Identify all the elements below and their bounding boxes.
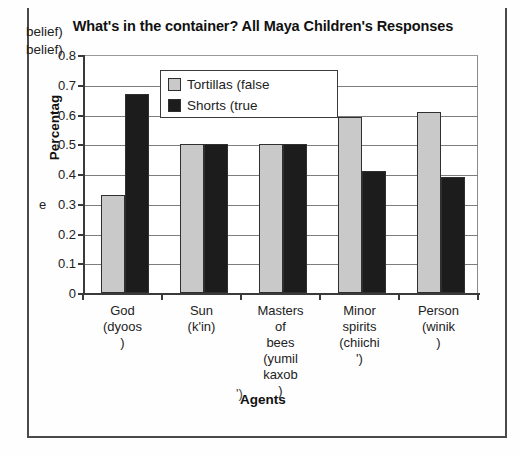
x-axis-category-label: Masters bbox=[236, 303, 326, 319]
y-axis-tick bbox=[78, 115, 85, 117]
bar-tortillas bbox=[101, 195, 125, 293]
x-axis-category-label: God bbox=[78, 303, 168, 319]
x-axis-category-label: ') bbox=[315, 351, 405, 367]
x-axis-category-label: (dyoos bbox=[78, 319, 168, 335]
x-axis-tick bbox=[477, 293, 479, 300]
x-axis-category-label: spirits bbox=[315, 319, 405, 335]
scanned-page: What's in the container? All Maya Childr… bbox=[0, 0, 521, 456]
y-axis-title-artifact: e bbox=[39, 196, 46, 211]
page-border-right bbox=[505, 8, 507, 438]
x-axis-tick bbox=[82, 293, 84, 300]
y-axis-tick-label: 0.3 bbox=[58, 196, 76, 211]
bar-shorts bbox=[204, 144, 228, 293]
y-axis-tick-label: 0.2 bbox=[58, 226, 76, 241]
y-axis-tick bbox=[78, 55, 85, 57]
x-axis-tick bbox=[161, 293, 163, 300]
y-axis-tick bbox=[78, 144, 85, 146]
x-axis-line bbox=[83, 293, 480, 295]
y-axis-tick bbox=[78, 204, 85, 206]
x-axis-category-label: Person bbox=[394, 303, 484, 319]
x-axis-category-label: kaxob bbox=[236, 367, 326, 383]
bar-shorts bbox=[441, 177, 465, 293]
bar-shorts bbox=[362, 171, 386, 293]
y-axis-title: Percentag bbox=[47, 68, 62, 188]
bar-tortillas bbox=[417, 112, 441, 293]
bar-shorts bbox=[125, 94, 149, 293]
y-axis-tick-label: 0.1 bbox=[58, 256, 76, 271]
x-axis-tick bbox=[319, 293, 321, 300]
page-border-left bbox=[27, 8, 29, 438]
legend-entry-tortillas: Tortillas (false bbox=[168, 75, 270, 93]
page-border-bottom bbox=[27, 436, 507, 438]
bar-shorts bbox=[283, 144, 307, 293]
x-axis-tick bbox=[398, 293, 400, 300]
x-axis-category-label: ) bbox=[78, 335, 168, 351]
y-axis-tick bbox=[78, 85, 85, 87]
x-axis-category-label: bees bbox=[236, 335, 326, 351]
bar-tortillas bbox=[259, 144, 283, 293]
x-axis-tick bbox=[240, 293, 242, 300]
x-axis-category-label: (winik bbox=[394, 319, 484, 335]
x-axis-category-label: (k'in) bbox=[157, 319, 247, 335]
bar-tortillas bbox=[338, 117, 362, 293]
x-axis-category-label: Sun bbox=[157, 303, 247, 319]
y-axis-tick bbox=[78, 234, 85, 236]
x-axis-category-label: (chiichi bbox=[315, 335, 405, 351]
y-axis-tick bbox=[78, 174, 85, 176]
legend-swatch-tortillas bbox=[168, 78, 181, 91]
legend-entry-shorts: Shorts (true bbox=[168, 96, 258, 114]
legend-label-tortillas-wrap: belief) bbox=[26, 24, 63, 39]
legend-label-tortillas: Tortillas (false bbox=[187, 77, 270, 92]
x-axis-category-label: of bbox=[236, 319, 326, 335]
chart-title: What's in the container? All Maya Childr… bbox=[28, 18, 498, 34]
x-axis-category-label: ) bbox=[394, 335, 484, 351]
y-axis-tick-label: 0 bbox=[69, 286, 76, 301]
y-axis-tick bbox=[78, 263, 85, 265]
x-axis-category-label: ) bbox=[236, 383, 326, 399]
bar-tortillas bbox=[180, 144, 204, 293]
chart-legend: Tortillas (false Shorts (true bbox=[160, 70, 338, 118]
legend-swatch-shorts bbox=[168, 99, 181, 112]
legend-label-shorts: Shorts (true bbox=[187, 98, 258, 113]
x-axis-category-label: (yumil bbox=[236, 351, 326, 367]
x-axis-category-label: Minor bbox=[315, 303, 405, 319]
legend-label-shorts-wrap: belief) bbox=[26, 42, 63, 57]
